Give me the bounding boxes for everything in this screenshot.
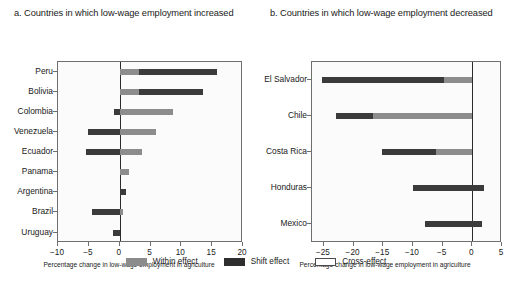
category-label: Uruguay xyxy=(0,227,53,237)
panel-b-plot-area xyxy=(311,61,501,242)
category-label: Costa Rica xyxy=(256,146,307,156)
category-label: Brazil xyxy=(0,206,53,216)
x-axis-tick xyxy=(180,242,181,246)
y-axis-tick xyxy=(53,171,57,172)
panel-b-title: b. Countries in which low-wage employmen… xyxy=(256,0,512,20)
bar-costa-rica xyxy=(312,149,502,155)
x-axis-tick-label: 5 xyxy=(499,248,504,257)
x-axis-tick xyxy=(119,242,120,246)
panel-a-title: a. Countries in which low-wage employmen… xyxy=(0,0,256,20)
bar-segment-shift xyxy=(413,185,484,191)
y-axis-tick xyxy=(53,151,57,152)
bar-segment-shift xyxy=(113,230,120,236)
bar-segment-shift xyxy=(120,189,126,195)
y-axis-tick xyxy=(53,211,57,212)
bar-bolivia xyxy=(58,89,243,95)
legend-swatch-cross-icon xyxy=(315,258,336,266)
x-axis-tick-label: −10 xyxy=(50,248,64,257)
legend-item-shift: Shift effect xyxy=(224,257,290,266)
bar-segment-within xyxy=(120,129,156,135)
legend-label-shift: Shift effect xyxy=(251,257,290,266)
bar-segment-shift xyxy=(139,89,203,95)
x-axis-tick xyxy=(323,242,324,246)
x-axis-tick xyxy=(412,242,413,246)
bar-segment-shift xyxy=(86,149,120,155)
legend-item-within: Within effect xyxy=(126,257,198,266)
category-label: Peru xyxy=(0,66,53,76)
category-label: Ecuador xyxy=(0,146,53,156)
category-label: Venezuela xyxy=(0,126,53,136)
chart-legend: Within effect Shift effect Cross-effect xyxy=(0,257,512,266)
bar-segment-shift xyxy=(92,209,120,215)
bar-segment-shift xyxy=(382,149,435,155)
panel-b: b. Countries in which low-wage employmen… xyxy=(256,0,512,20)
bar-chile xyxy=(312,113,502,119)
y-axis-tick xyxy=(53,111,57,112)
category-label: Panama xyxy=(0,166,53,176)
category-label: Chile xyxy=(256,110,307,120)
x-axis-tick-label: −5 xyxy=(83,248,92,257)
bar-segment-shift xyxy=(322,77,444,83)
category-label: Colombia xyxy=(0,106,53,116)
x-axis-tick xyxy=(57,242,58,246)
y-axis-tick xyxy=(307,187,311,188)
y-axis-tick xyxy=(307,115,311,116)
bar-peru xyxy=(58,69,243,75)
y-axis-tick xyxy=(53,191,57,192)
bar-segment-shift xyxy=(336,113,373,119)
x-axis-tick xyxy=(242,242,243,246)
legend-label-cross: Cross-effect xyxy=(342,257,386,266)
bar-segment-within xyxy=(120,169,129,175)
legend-label-within: Within effect xyxy=(153,257,198,266)
y-axis-tick xyxy=(307,79,311,80)
x-axis-tick-label: 5 xyxy=(147,248,152,257)
x-axis-tick xyxy=(150,242,151,246)
x-axis-tick xyxy=(501,242,502,246)
category-label: El Salvador xyxy=(256,74,307,84)
x-axis-tick-label: 0 xyxy=(469,248,474,257)
y-axis-tick xyxy=(53,71,57,72)
legend-swatch-shift-icon xyxy=(224,258,245,266)
bar-segment-within xyxy=(120,209,123,215)
bar-segment-shift xyxy=(88,129,120,135)
bar-argentina xyxy=(58,189,243,195)
x-axis-tick xyxy=(471,242,472,246)
bar-segment-shift xyxy=(139,69,217,75)
bar-venezuela xyxy=(58,129,243,135)
x-axis-tick xyxy=(442,242,443,246)
bar-ecuador xyxy=(58,149,243,155)
category-label: Honduras xyxy=(256,182,307,192)
bar-mexico xyxy=(312,221,502,227)
chart-panels: a. Countries in which low-wage employmen… xyxy=(0,0,512,20)
bar-segment-within xyxy=(120,69,139,75)
legend-swatch-within-icon xyxy=(126,258,147,266)
x-axis-tick xyxy=(353,242,354,246)
y-axis-tick xyxy=(53,131,57,132)
x-axis-tick-label: −5 xyxy=(437,248,446,257)
panel-a: a. Countries in which low-wage employmen… xyxy=(0,0,256,20)
x-axis-tick-label: −25 xyxy=(316,248,330,257)
x-axis-tick-label: 20 xyxy=(237,248,246,257)
x-axis-tick-label: 0 xyxy=(116,248,121,257)
bar-segment-within xyxy=(436,149,473,155)
category-label: Mexico xyxy=(256,218,307,228)
bar-brazil xyxy=(58,209,243,215)
category-label: Bolivia xyxy=(0,86,53,96)
bar-segment-within xyxy=(120,149,143,155)
bar-segment-within xyxy=(120,109,173,115)
bar-colombia xyxy=(58,109,243,115)
y-axis-tick xyxy=(307,151,311,152)
bar-honduras xyxy=(312,185,502,191)
bar-el-salvador xyxy=(312,77,502,83)
x-axis-tick-label: 15 xyxy=(207,248,216,257)
x-axis-tick xyxy=(382,242,383,246)
x-axis-tick-label: −15 xyxy=(375,248,389,257)
y-axis-tick xyxy=(53,91,57,92)
x-axis-tick xyxy=(88,242,89,246)
bar-uruguay xyxy=(58,230,243,236)
bar-segment-shift xyxy=(425,221,482,227)
bar-panama xyxy=(58,169,243,175)
bar-segment-within xyxy=(120,89,140,95)
bar-segment-within xyxy=(444,77,473,83)
category-label: Argentina xyxy=(0,186,53,196)
